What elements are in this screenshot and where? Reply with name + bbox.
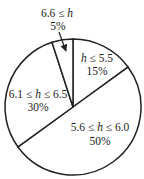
slice-label-4-pct: 5%: [50, 20, 66, 32]
slice-label-1-pct: 15%: [86, 65, 108, 77]
slice-label-1-range: h ≤ 5.5: [81, 52, 113, 64]
pie-slices: [5, 39, 141, 175]
slice-label-3-range: 6.1 ≤ h ≤ 6.5: [9, 88, 68, 100]
slice-label-2-range: 5.6 ≤ h ≤ 6.0: [71, 121, 130, 133]
slice-label-4-range: 6.6 ≤ h: [41, 7, 73, 19]
slice-label-2-pct: 50%: [89, 135, 111, 147]
slice-label-3-pct: 30%: [27, 101, 49, 113]
pie-chart: 6.6 ≤ h 5% h ≤ 5.5 15% 6.1 ≤ h ≤ 6.5 30%…: [0, 0, 144, 179]
